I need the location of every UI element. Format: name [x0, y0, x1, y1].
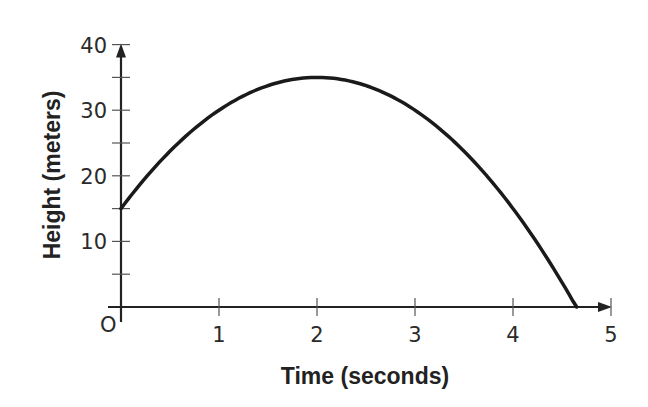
y-tick-label: 20 [80, 165, 107, 189]
y-tick-label: 10 [80, 230, 107, 254]
x-tick-label: 4 [506, 323, 519, 347]
x-tick-label: 3 [408, 323, 421, 347]
y-tick-label: 30 [80, 99, 107, 123]
x-tick-label: 1 [212, 323, 225, 347]
y-tick-label: 40 [80, 34, 107, 58]
x-axis-arrow-icon [598, 302, 612, 312]
y-axis-title: Height (meters) [39, 91, 65, 260]
y-axis-arrow-icon [116, 44, 126, 58]
chart-figure: 1234510203040 O Time (seconds) Height (m… [0, 0, 648, 407]
x-axis-title: Time (seconds) [281, 363, 449, 389]
origin-label: O [100, 313, 117, 337]
x-tick-label: 5 [604, 323, 617, 347]
height-curve [121, 77, 577, 307]
x-tick-label: 2 [310, 323, 323, 347]
